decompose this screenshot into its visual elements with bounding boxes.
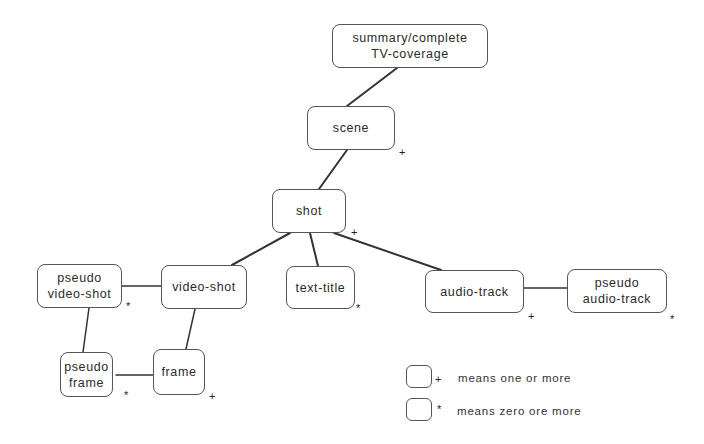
star-marker-pseudo-video-shot: * (126, 301, 130, 312)
legend-text-one-or-more: means one or more (458, 372, 571, 384)
node-label: pseudo audio-track (583, 275, 651, 307)
node-video-shot: video-shot (161, 265, 247, 309)
node-label: scene (333, 120, 369, 136)
node-label: pseudo video-shot (48, 270, 112, 302)
edge-shot-video-shot (232, 233, 290, 265)
star-marker-text-title: * (356, 303, 360, 314)
node-label: pseudo frame (64, 359, 109, 391)
node-shot: shot (272, 189, 346, 233)
node-frame: frame (153, 349, 205, 395)
plus-marker-shot: + (351, 227, 357, 238)
star-marker-pseudo-audio-track: * (670, 314, 674, 325)
node-label: summary/complete TV-coverage (352, 30, 467, 62)
plus-marker-frame: + (209, 391, 215, 402)
edge-shot-audio-track (334, 233, 441, 270)
legend-text-zero-or-more: means zero ore more (457, 405, 582, 417)
node-text-title: text-title (286, 266, 355, 309)
node-label: video-shot (172, 279, 236, 295)
edge-scene-shot (319, 150, 347, 189)
node-scene: scene (307, 106, 395, 150)
edge-video-shot-frame (186, 309, 195, 349)
node-summary-tv-coverage: summary/complete TV-coverage (332, 24, 488, 68)
star-marker-pseudo-frame: * (124, 390, 128, 401)
node-label: text-title (296, 280, 346, 296)
node-audio-track: audio-track (425, 270, 524, 313)
edge-shot-text-title (310, 233, 318, 266)
legend-box-one-or-more (406, 365, 432, 388)
node-pseudo-audio-track: pseudo audio-track (567, 269, 667, 313)
legend-plus-marker: + (435, 374, 441, 385)
legend-star-marker: * (437, 404, 441, 415)
legend-box-zero-or-more (406, 398, 432, 421)
node-pseudo-frame: pseudo frame (60, 352, 113, 397)
edge-pseudo-video-shot-pseudo-frame (83, 308, 89, 352)
node-label: audio-track (440, 284, 508, 300)
node-pseudo-video-shot: pseudo video-shot (37, 264, 122, 308)
node-label: shot (296, 203, 322, 219)
plus-marker-scene: + (399, 147, 405, 158)
node-label: frame (162, 364, 197, 380)
edge-summary-scene (347, 68, 397, 106)
plus-marker-audio-track: + (528, 311, 534, 322)
